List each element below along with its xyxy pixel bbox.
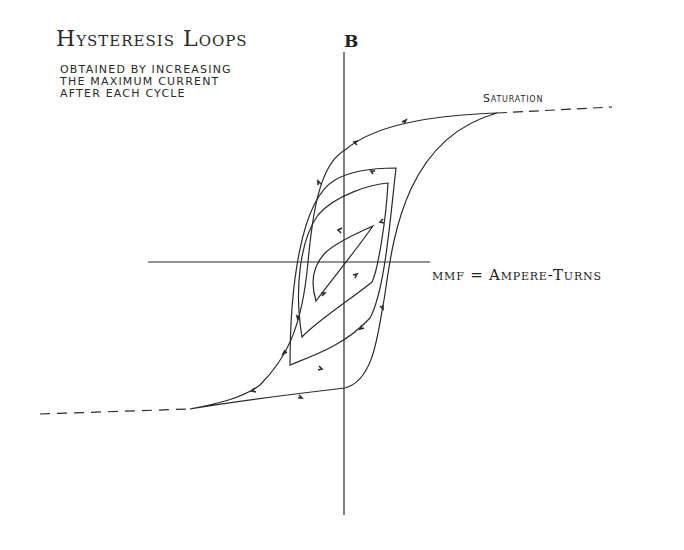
direction-arrows xyxy=(252,120,406,398)
saturation-dash-lower xyxy=(40,409,190,414)
saturation-dash-upper xyxy=(497,107,612,113)
loop-2 xyxy=(299,183,388,337)
hysteresis-diagram xyxy=(0,0,684,550)
loop-1 xyxy=(313,226,373,301)
